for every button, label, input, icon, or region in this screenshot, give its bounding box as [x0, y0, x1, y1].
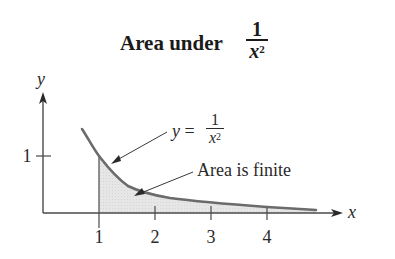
- curve-equation-fraction: 1 x2: [206, 112, 224, 146]
- equation-equals: =: [180, 121, 195, 141]
- equation-numerator: 1: [206, 112, 224, 128]
- equation-lhs: y: [172, 121, 180, 141]
- curve-label-arrowhead: [111, 155, 121, 164]
- y-axis-label: y: [35, 69, 45, 89]
- chart-figure: Area under 1 x2: [0, 0, 395, 259]
- area-finite-label: Area is finite: [197, 160, 291, 181]
- x-axis-label: x: [347, 202, 356, 222]
- area-label-arrow: [141, 172, 193, 193]
- plot-area: 1 2 3 4 1 x y: [0, 0, 395, 259]
- equation-denominator-exponent: 2: [216, 131, 221, 142]
- equation-denominator: x2: [206, 129, 224, 146]
- y-tick-label-1: 1: [23, 146, 32, 166]
- equation-denominator-base: x: [209, 129, 216, 146]
- curve-equation-label: y =: [172, 121, 195, 142]
- x-tick-label-3: 3: [207, 227, 216, 247]
- x-tick-label-2: 2: [151, 227, 160, 247]
- x-tick-label-1: 1: [95, 227, 104, 247]
- x-tick-label-4: 4: [263, 227, 272, 247]
- curve-label-arrow: [117, 132, 167, 160]
